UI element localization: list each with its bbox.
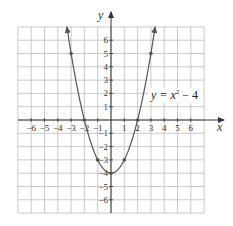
x-axis-label: x	[216, 120, 223, 134]
data-point	[109, 171, 113, 175]
data-point	[123, 158, 127, 162]
x-tick-label: 3	[149, 123, 154, 133]
x-tick-label: 5	[175, 123, 180, 133]
data-point	[69, 52, 73, 56]
x-tick-label: 6	[189, 123, 194, 133]
x-tick-label: −3	[66, 123, 76, 133]
y-tick-label: 1	[104, 102, 109, 112]
x-tick-label: 1	[122, 123, 127, 133]
y-tick-label: 2	[104, 88, 109, 98]
y-tick-label: 6	[104, 35, 109, 45]
data-point	[149, 52, 153, 56]
y-axis-label: y	[97, 8, 104, 22]
x-tick-label: −4	[53, 123, 63, 133]
x-tick-label: −6	[26, 123, 36, 133]
axes	[18, 12, 224, 213]
y-tick-label: −1	[98, 128, 108, 138]
y-tick-label: 3	[104, 75, 109, 85]
data-point	[83, 118, 87, 122]
svg-text:y = x2 − 4: y = x2 − 4	[150, 88, 198, 102]
y-tick-label: −6	[98, 195, 108, 205]
y-tick-label: −2	[98, 142, 108, 152]
x-tick-label: −5	[40, 123, 50, 133]
parabola-graph: −6−5−4−3−2−1123456654321−1−2−3−4−5−6 y =…	[0, 0, 233, 226]
y-tick-label: 4	[104, 62, 109, 72]
data-point	[96, 158, 100, 162]
y-tick-label: −5	[98, 182, 108, 192]
y-tick-label: 5	[104, 49, 109, 59]
equation-label: y = x2 − 4	[148, 88, 203, 103]
x-tick-label: 4	[162, 123, 167, 133]
data-point	[136, 118, 140, 122]
